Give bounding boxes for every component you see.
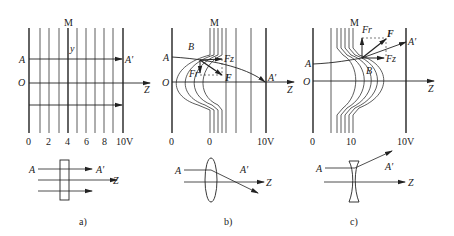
panel-b-Fr-label: Fr	[188, 68, 199, 79]
electrostatic-lens-figure: M y A A′ O Z 0 2 4 6 8 10V M B A	[0, 0, 454, 236]
panel-b-tick-10V: 10V	[257, 136, 275, 147]
panel-b-optical-analog: A A′ Z b)	[174, 158, 272, 228]
panel-b-electrode-label: M	[210, 17, 219, 28]
analog-a-Z-label: Z	[113, 175, 119, 186]
analog-c-Z-label: Z	[408, 177, 414, 188]
panel-a-Z-label: Z	[144, 84, 150, 95]
panel-a-tick-0: 0	[26, 136, 31, 147]
panel-c-tick-10V: 10V	[397, 136, 415, 147]
analog-a-A-prime-label: A′	[95, 164, 105, 175]
panel-c-A-label: A	[304, 58, 312, 69]
panel-a-field-diagram: M y A A′ O Z 0 2 4 6 8 10V	[18, 17, 150, 147]
caption-b: b)	[224, 216, 232, 228]
panel-b-field-diagram: M B A A′ O Z F Fr Fz 0 0 10V	[162, 17, 294, 147]
analog-b-A-prime-label: A′	[239, 164, 249, 175]
panel-b-tick-0-mid: 0	[207, 136, 212, 147]
panel-c-tick-10: 10	[346, 136, 356, 147]
panel-c-Fz-label: Fz	[385, 53, 396, 64]
caption-a: a)	[79, 216, 87, 228]
panel-b-O-label: O	[162, 77, 169, 88]
analog-a-A-label: A	[28, 164, 36, 175]
panel-b-F-label: F	[224, 72, 232, 83]
panel-b-Z-label: Z	[287, 84, 293, 95]
panel-c-F-label: F	[386, 28, 394, 39]
panel-a-electrode-label: M	[64, 17, 73, 28]
panel-a-O-label: O	[18, 77, 25, 88]
panel-b-A-label: A	[162, 52, 170, 63]
panel-c-O-label: O	[303, 76, 310, 87]
panel-a-tick-4: 4	[65, 136, 70, 147]
panel-a-A-prime-label: A′	[124, 54, 134, 65]
panel-b-B-label: B	[188, 41, 194, 52]
panel-b-A-prime-label: A′	[267, 72, 277, 83]
panel-c-optical-analog: A A′ Z c)	[315, 151, 414, 228]
panel-c-Fr-label: Fr	[361, 24, 372, 35]
caption-c: c)	[350, 216, 358, 228]
panel-a-optical-analog: A A′ Z a)	[28, 160, 119, 228]
panel-b-Fz-label: Fz	[223, 53, 234, 64]
panel-c-B-label: B	[366, 65, 372, 76]
panel-c-electrode-label: M	[350, 17, 359, 28]
panel-a-A-label: A	[18, 54, 26, 65]
analog-b-A-label: A	[174, 165, 182, 176]
panel-c-A-prime-label: A′	[407, 36, 417, 47]
panel-c-field-diagram: M A A′ O Z B F Fr Fz 0 10 10V	[303, 17, 434, 147]
analog-c-A-prime-label: A′	[384, 161, 394, 172]
panel-c-tick-0: 0	[310, 136, 315, 147]
panel-a-tick-8: 8	[102, 136, 107, 147]
analog-c-A-label: A	[315, 163, 323, 174]
panel-a-tick-2: 2	[46, 136, 51, 147]
panel-b-tick-0-left: 0	[169, 136, 174, 147]
convex-lens-shape	[205, 158, 217, 202]
panel-a-tick-10V: 10V	[116, 136, 134, 147]
panel-a-y-label: y	[69, 43, 75, 54]
panel-a-tick-6: 6	[84, 136, 89, 147]
panel-c-Z-label: Z	[428, 83, 434, 94]
analog-b-Z-label: Z	[266, 177, 272, 188]
